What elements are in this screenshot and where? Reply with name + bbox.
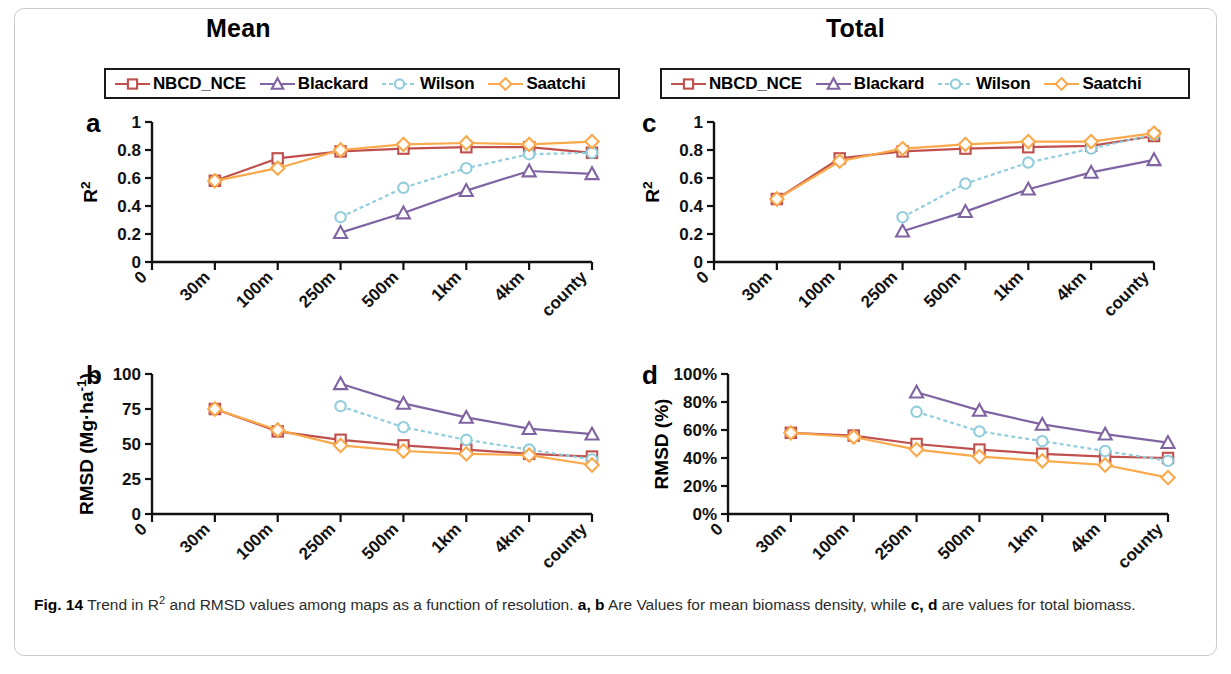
legend-right-entry-blackard[interactable]: Blackard bbox=[815, 74, 924, 94]
panel-c-xtick-label: 250m bbox=[857, 267, 901, 311]
panel-b-xtick-label: 30m bbox=[176, 519, 213, 556]
legend-left-label: NBCD_NCE bbox=[153, 74, 246, 94]
legend-right-label: Wilson bbox=[976, 74, 1030, 94]
legend-swatch-circle-icon bbox=[937, 76, 974, 92]
legend-left-label: Blackard bbox=[298, 74, 368, 94]
legend-swatch-circle-icon bbox=[381, 76, 418, 92]
panel-a-ytick-label: 0.2 bbox=[117, 225, 141, 244]
panel-a-point-diamond-icon bbox=[585, 135, 598, 148]
panel-d-xtick-label: 500m bbox=[934, 519, 978, 563]
panel-c-y-axis-title: R2 bbox=[640, 181, 664, 202]
panel-d-ytick-label: 60% bbox=[683, 421, 717, 440]
figure-caption: Fig. 14 Trend in R2 and RMSD values amon… bbox=[34, 592, 1197, 617]
panel-c-point-triangle-icon bbox=[1148, 153, 1161, 165]
panel-d-point-circle-icon bbox=[1037, 436, 1047, 446]
panel-b-point-circle-icon bbox=[335, 401, 345, 411]
panel-b-xtick-label: county bbox=[538, 519, 591, 572]
panel-a-point-circle-icon bbox=[461, 163, 471, 173]
panel-a-xtick-label: 100m bbox=[232, 267, 276, 311]
panel-c-ytick-label: 0.8 bbox=[679, 141, 703, 160]
panel-a-xtick-label: 500m bbox=[358, 267, 402, 311]
panel-c-plot: 00.20.40.60.81030m100m250m500m1km4kmcoun… bbox=[642, 104, 1207, 334]
panel-a-letter: a bbox=[86, 108, 100, 139]
legend-swatch-triangle-icon bbox=[815, 76, 852, 92]
caption-fig-number: Fig. 14 bbox=[34, 596, 83, 613]
legend-right-label: Saatchi bbox=[1082, 74, 1141, 94]
panel-c-xtick-label: 500m bbox=[920, 267, 964, 311]
column-title-total: Total bbox=[826, 14, 885, 43]
panel-d-point-circle-icon bbox=[911, 407, 921, 417]
legend-left-entry-wilson[interactable]: Wilson bbox=[381, 74, 474, 94]
legend-swatch-square-icon bbox=[670, 76, 707, 92]
panel-d: dRMSD (%)0%20%40%60%80%100%030m100m250m5… bbox=[642, 350, 1207, 590]
panel-b-ytick-label: 25 bbox=[122, 470, 141, 489]
legend-left-label: Wilson bbox=[420, 74, 474, 94]
panel-d-point-circle-icon bbox=[1163, 456, 1173, 466]
legend-right-label: Blackard bbox=[854, 74, 924, 94]
panel-d-xtick-label: 100m bbox=[808, 519, 852, 563]
panel-b-xtick-label: 250m bbox=[295, 519, 339, 563]
panel-b-point-circle-icon bbox=[461, 435, 471, 445]
panel-d-xtick-label: county bbox=[1114, 519, 1167, 572]
panel-c-ytick-label: 1 bbox=[694, 113, 703, 132]
panel-b-xtick-label: 100m bbox=[232, 519, 276, 563]
panel-c-xtick-label: 1km bbox=[990, 267, 1027, 304]
legend-swatch-square-icon bbox=[114, 76, 151, 92]
panel-b: bRMSD (Mg·ha-1)0255075100030m100m250m500… bbox=[86, 350, 646, 590]
panel-a-xtick-label: 1km bbox=[428, 267, 465, 304]
panel-d-y-axis-title: RMSD (%) bbox=[651, 399, 673, 490]
panel-b-xtick-label: 4km bbox=[490, 519, 527, 556]
panel-d-xtick-label: 1km bbox=[1004, 519, 1041, 556]
panel-a-xtick-label: 4km bbox=[490, 267, 527, 304]
panel-d-ytick-label: 100% bbox=[674, 365, 717, 384]
legend-right-label: NBCD_NCE bbox=[709, 74, 802, 94]
panel-d-ytick-label: 80% bbox=[683, 393, 717, 412]
panel-a-plot: 00.20.40.60.81030m100m250m500m1km4kmcoun… bbox=[86, 104, 646, 334]
panel-d-point-diamond-icon bbox=[1161, 471, 1174, 484]
legend-swatch-diamond-icon bbox=[1043, 76, 1080, 92]
column-title-mean: Mean bbox=[206, 14, 271, 43]
legend-right-entry-nbcd-nce[interactable]: NBCD_NCE bbox=[670, 74, 802, 94]
legend-right-entry-saatchi[interactable]: Saatchi bbox=[1043, 74, 1141, 94]
panel-c-ytick-label: 0.6 bbox=[679, 169, 703, 188]
legend-left-entry-blackard[interactable]: Blackard bbox=[259, 74, 368, 94]
panel-d-xtick-label: 250m bbox=[871, 519, 915, 563]
legend-left: NBCD_NCEBlackardWilsonSaatchi bbox=[104, 68, 620, 99]
panel-a-series-blackard-line bbox=[341, 171, 592, 233]
panel-a-ytick-label: 0.6 bbox=[117, 169, 141, 188]
panel-d-letter: d bbox=[642, 360, 658, 391]
panel-b-point-triangle-icon bbox=[334, 377, 347, 389]
panel-c-point-circle-icon bbox=[1023, 157, 1033, 167]
panel-b-ytick-label: 100 bbox=[113, 365, 141, 384]
panel-d-xtick-label: 4km bbox=[1066, 519, 1103, 556]
legend-right-entry-wilson[interactable]: Wilson bbox=[937, 74, 1030, 94]
panel-a-ytick-label: 1 bbox=[132, 113, 141, 132]
panel-c-xtick-label: 30m bbox=[738, 267, 775, 304]
panel-b-plot: 0255075100030m100m250m500m1km4kmcounty bbox=[86, 350, 646, 590]
panel-d-plot: 0%20%40%60%80%100%030m100m250m500m1km4km… bbox=[642, 350, 1207, 590]
panel-b-ytick-label: 75 bbox=[122, 400, 141, 419]
panel-d-point-circle-icon bbox=[974, 426, 984, 436]
panel-b-xtick-label: 1km bbox=[428, 519, 465, 556]
panel-a-xtick-label: 250m bbox=[295, 267, 339, 311]
panel-c-letter: c bbox=[642, 108, 656, 139]
panel-b-xtick-label: 500m bbox=[358, 519, 402, 563]
legend-left-entry-nbcd-nce[interactable]: NBCD_NCE bbox=[114, 74, 246, 94]
panel-b-point-circle-icon bbox=[398, 422, 408, 432]
panel-c-ytick-label: 0.4 bbox=[679, 197, 703, 216]
panel-c-point-circle-icon bbox=[960, 178, 970, 188]
panel-c-xtick-label: 100m bbox=[794, 267, 838, 311]
panel-a-y-axis-title: R2 bbox=[78, 181, 102, 202]
panel-d-ytick-label: 20% bbox=[683, 477, 717, 496]
panel-d-point-triangle-icon bbox=[910, 386, 923, 398]
panel-d-ytick-label: 40% bbox=[683, 449, 717, 468]
panel-c-point-circle-icon bbox=[897, 212, 907, 222]
panel-a-point-circle-icon bbox=[335, 212, 345, 222]
legend-left-entry-saatchi[interactable]: Saatchi bbox=[487, 74, 585, 94]
legend-right: NBCD_NCEBlackardWilsonSaatchi bbox=[660, 68, 1190, 99]
panel-c-ytick-label: 0.2 bbox=[679, 225, 703, 244]
legend-swatch-diamond-icon bbox=[487, 76, 524, 92]
caption-text: Trend in R2 and RMSD values among maps a… bbox=[87, 596, 1135, 613]
panel-a: aR200.20.40.60.81030m100m250m500m1km4kmc… bbox=[86, 104, 646, 334]
panel-d-point-circle-icon bbox=[1100, 446, 1110, 456]
